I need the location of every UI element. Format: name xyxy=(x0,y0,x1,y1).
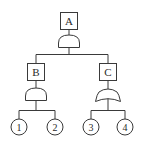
basic-event-4: 4 xyxy=(117,119,133,135)
basic-event-1: 1 xyxy=(11,119,27,135)
basic-event-4-label: 4 xyxy=(123,122,128,133)
basic-event-3-label: 3 xyxy=(89,122,94,133)
event-a-label: A xyxy=(65,15,73,27)
event-c: C xyxy=(100,64,117,81)
basic-event-2: 2 xyxy=(47,119,63,135)
and-gate-icon xyxy=(59,35,80,48)
event-b-label: B xyxy=(32,66,39,78)
event-a: A xyxy=(61,13,78,30)
basic-event-3: 3 xyxy=(83,119,99,135)
basic-event-1-label: 1 xyxy=(17,122,22,133)
event-c-label: C xyxy=(104,66,111,78)
basic-event-2-label: 2 xyxy=(53,122,58,133)
fault-tree-diagram: A B C 1 2 3 4 xyxy=(0,0,141,148)
event-b: B xyxy=(28,64,45,81)
and-gate-icon xyxy=(26,88,47,101)
